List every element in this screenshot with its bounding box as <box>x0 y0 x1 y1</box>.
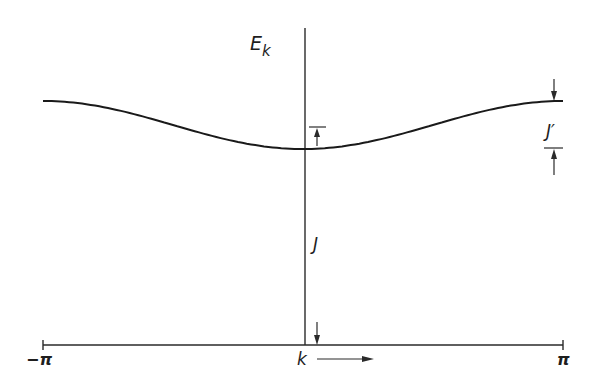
k-axis-label: k <box>297 349 308 369</box>
jprime-lower-arrowhead-icon <box>551 149 557 159</box>
j-lower-arrowhead-icon <box>314 335 320 345</box>
right-arrow-icon <box>362 356 374 362</box>
k-direction-arrow <box>317 356 374 362</box>
jprime-lower-marker <box>544 148 563 175</box>
j-label: J <box>310 234 318 254</box>
j-upper-marker <box>309 127 326 146</box>
j-lower-marker <box>314 322 320 345</box>
energy-axis-label: Ek <box>250 32 272 60</box>
jprime-upper-marker <box>551 79 557 101</box>
j-upper-arrowhead-icon <box>314 128 320 137</box>
minus-pi-label: −π <box>26 350 52 369</box>
jprime-upper-arrowhead-icon <box>551 91 557 101</box>
jprime-label: J′ <box>543 121 555 141</box>
dispersion-diagram: Ek J J′ k −π π <box>0 0 592 380</box>
band-curve <box>43 101 563 149</box>
pi-label: π <box>557 350 570 369</box>
